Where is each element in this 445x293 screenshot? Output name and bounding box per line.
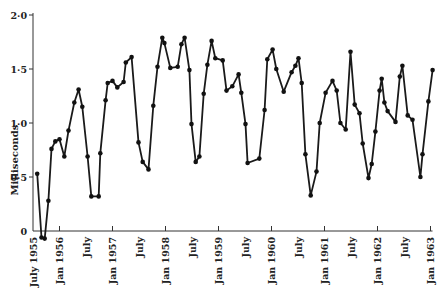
data-point [162,41,167,46]
data-point [224,88,229,93]
x-tick-label: July [187,237,198,259]
x-tick-label: July [134,237,145,259]
data-point [201,92,206,97]
data-point [213,56,218,61]
x-tick-label: July [293,237,304,259]
data-point [53,139,58,144]
data-point [89,194,94,199]
y-axis-title: Milliseconds [9,124,20,195]
data-point [103,98,108,103]
data-point [330,79,335,84]
data-point [360,141,365,146]
x-tick-label: July [346,237,357,259]
data-point [155,65,160,70]
x-tick-label: July [240,237,251,259]
data-point [369,162,374,167]
data-point [80,105,85,110]
data-point [62,154,67,159]
data-point [405,113,410,118]
data-point [168,66,173,71]
y-tick-label: 0 [20,226,27,237]
data-series-line [35,35,435,241]
data-point [420,152,425,157]
data-point [357,111,362,116]
x-tick-label: Jan 1961 [319,237,330,285]
data-point [270,47,275,52]
data-point [308,193,313,198]
data-point [189,122,194,127]
data-point [243,122,248,127]
series-line [37,38,432,239]
data-point [220,58,225,63]
data-point [98,151,103,156]
data-point [373,129,378,134]
y-tick-label: 1·5 [10,64,27,75]
data-point [426,99,431,104]
data-point [197,154,202,159]
data-point [46,199,51,204]
data-point [187,68,192,73]
data-point [348,49,353,54]
data-point [140,160,145,165]
x-tick-label: July [399,237,410,259]
data-point [124,60,129,65]
data-point [274,67,279,72]
data-point [236,72,241,77]
data-point [281,89,286,94]
data-point [49,147,54,152]
x-axis-tick-labels: July 1955Jan 1956JulyJan 1957JulyJan 195… [28,237,437,289]
data-point [377,88,382,93]
data-point [366,176,371,181]
data-point [115,85,120,90]
x-tick-label: Jan 1957 [107,237,118,285]
data-point [209,39,214,44]
data-point [265,57,270,62]
data-point [121,80,126,85]
x-tick-label: Jan 1958 [160,237,171,286]
data-point [334,88,339,93]
data-point [182,35,187,40]
data-point [42,236,47,241]
x-tick-label: July 1955 [28,237,39,288]
data-point [262,108,267,113]
data-point [398,74,403,79]
data-point [66,128,71,133]
y-axis-tick-labels: 00·51·01·52·0 [10,10,27,237]
data-point [400,64,405,69]
data-point [179,42,184,47]
data-point [129,55,134,60]
data-point [382,100,387,105]
data-point [76,87,81,92]
data-point [343,127,348,132]
data-point [96,194,101,199]
data-point [35,172,40,177]
data-point [352,102,357,107]
x-tick-label: July [81,237,92,259]
data-point [151,103,156,108]
data-point [296,56,301,61]
data-point [430,68,435,73]
data-point [418,175,423,180]
data-point [205,62,210,67]
data-point [289,70,294,75]
data-point [85,154,90,159]
data-point [160,35,165,40]
data-point [230,84,235,89]
y-tick-label: 2·0 [10,10,27,21]
data-point [105,81,110,86]
data-point [314,169,319,174]
x-tick-label: Jan 1956 [54,237,65,286]
axes [29,13,433,231]
x-tick-label: Jan 1963 [425,237,436,285]
data-point [323,91,328,96]
data-point [303,152,308,157]
data-point [257,156,262,161]
data-point [57,137,62,142]
x-tick-label: Jan 1960 [266,237,277,286]
data-point [239,91,244,96]
data-point [175,65,180,70]
data-point [385,109,390,114]
x-tick-label: Jan 1959 [213,237,224,286]
data-point [110,79,115,84]
data-point [245,161,250,166]
